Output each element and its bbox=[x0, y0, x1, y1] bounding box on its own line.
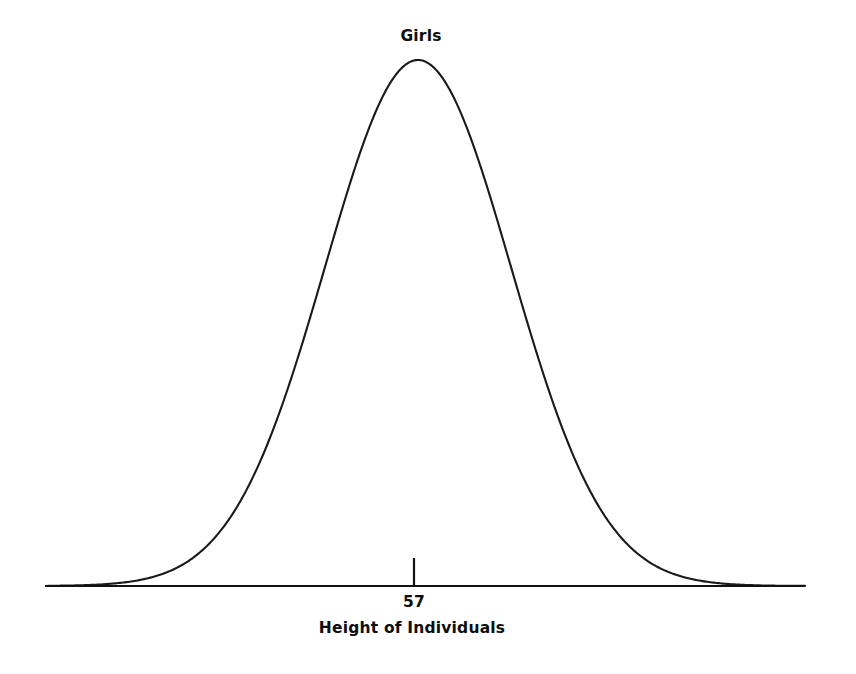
x-axis-label: Height of Individuals bbox=[0, 619, 856, 637]
chart-title: Girls bbox=[0, 27, 856, 45]
bell-curve-path bbox=[48, 60, 805, 586]
normal-distribution-figure: Girls 57 Height of Individuals bbox=[0, 0, 856, 674]
mean-tick-label: 57 bbox=[0, 593, 856, 611]
distribution-plot-svg bbox=[0, 0, 856, 674]
